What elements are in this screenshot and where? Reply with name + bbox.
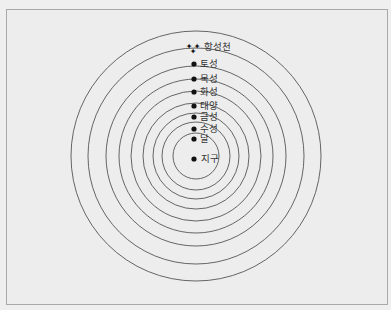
geocentric-model-diagram: ✦✦✦: [0, 0, 391, 310]
label-fixed-stars: 항성천: [204, 42, 231, 52]
body-dot-icon: [191, 156, 196, 161]
label-moon: 달: [200, 134, 209, 144]
label-jupiter: 목성: [200, 74, 218, 84]
body-dot-icon: [191, 89, 196, 94]
body-dot-icon: [191, 136, 196, 141]
orbit-circle: [143, 103, 249, 209]
body-dot-icon: [191, 103, 196, 108]
body-dot-icon: [191, 61, 196, 66]
label-saturn: 토성: [200, 59, 218, 69]
orbit-circle: [153, 113, 239, 199]
body-dot-icon: [191, 114, 196, 119]
svg-text:✦: ✦: [190, 47, 197, 56]
label-venus: 금성: [200, 112, 218, 122]
orbit-circle: [71, 31, 321, 281]
orbit-circle: [119, 79, 273, 233]
stars-icon: ✦✦✦: [186, 42, 201, 56]
body-dot-icon: [191, 76, 196, 81]
body-markers: ✦✦✦: [186, 42, 201, 162]
label-earth: 지구: [201, 154, 219, 164]
orbit-circle: [162, 122, 230, 190]
label-sun: 태양: [200, 101, 218, 111]
orbit-circles: [71, 31, 321, 281]
orbit-circle: [131, 91, 261, 221]
label-mars: 화성: [200, 87, 218, 97]
body-dot-icon: [191, 126, 196, 131]
